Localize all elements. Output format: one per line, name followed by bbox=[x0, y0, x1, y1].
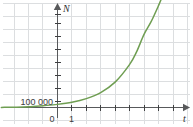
x-tick-label-1: 1 bbox=[69, 114, 74, 124]
y-tick-label-100000: 100 000 bbox=[20, 97, 53, 107]
x-axis-label: t bbox=[183, 113, 186, 124]
y-axis-label: N bbox=[62, 3, 71, 14]
origin-label: 0 bbox=[49, 114, 54, 124]
exponential-growth-chart: 100 000 0 1 N t bbox=[0, 0, 193, 127]
